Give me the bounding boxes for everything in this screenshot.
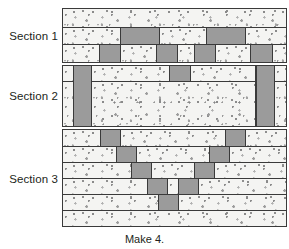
patch-light	[160, 28, 207, 44]
patch-gray	[210, 147, 230, 162]
patch-gray	[226, 130, 246, 146]
patch-light	[63, 211, 286, 227]
section3-row5	[63, 195, 286, 211]
patch-light	[178, 45, 195, 63]
patch-light	[152, 163, 194, 178]
patch-gray	[195, 45, 216, 63]
patch-light	[191, 66, 256, 81]
section2-left-bar	[73, 66, 92, 126]
patch-gray	[157, 45, 178, 63]
patch-light	[121, 45, 157, 63]
section3-row3	[63, 163, 286, 179]
patch-light	[246, 28, 286, 44]
patch-light	[63, 179, 148, 194]
patch-light	[199, 179, 286, 194]
patch-gray	[132, 163, 152, 178]
patch-light	[273, 45, 286, 63]
patch-gray	[207, 28, 246, 44]
patch-gray	[117, 147, 137, 162]
section3-row1	[63, 130, 286, 147]
figure-caption: Make 4.	[0, 233, 289, 245]
section-1-block	[62, 8, 287, 63]
section-label-3: Section 3	[0, 173, 58, 185]
patch-light	[63, 45, 100, 63]
section2-right-bar	[256, 66, 275, 126]
section1-row3	[63, 45, 286, 63]
quilt-section-diagram: Section 1 Section 2	[0, 0, 289, 249]
patch-light	[216, 45, 252, 63]
section2-row2	[63, 82, 286, 127]
section-3-block	[62, 129, 287, 227]
patch-light	[63, 163, 132, 178]
patch-light	[63, 195, 159, 210]
patch-light	[246, 130, 286, 146]
patch-light	[63, 9, 286, 27]
section3-row6	[63, 211, 286, 227]
patch-light	[63, 147, 117, 162]
section-label-1: Section 1	[0, 30, 58, 42]
patch-light	[63, 130, 101, 146]
patch-gray	[251, 45, 272, 63]
patch-light	[121, 130, 226, 146]
patch-gray	[101, 130, 121, 146]
section1-row2	[63, 28, 286, 45]
section-label-2: Section 2	[0, 90, 58, 102]
patch-gray	[100, 45, 121, 63]
patch-light	[168, 179, 179, 194]
patch-light	[275, 66, 286, 81]
patch-light	[179, 195, 286, 210]
section1-row1	[63, 9, 286, 28]
patch-light	[92, 66, 170, 81]
section3-row4	[63, 179, 286, 195]
patch-light	[63, 82, 73, 127]
patch-gray	[148, 179, 168, 194]
patch-gray	[170, 66, 191, 81]
patch-light	[63, 66, 73, 81]
patch-light	[92, 82, 256, 127]
patch-light	[215, 163, 286, 178]
section-2-block	[62, 65, 287, 127]
patch-light	[275, 82, 286, 127]
patch-gray	[159, 195, 179, 210]
section3-row2	[63, 147, 286, 163]
patch-gray	[179, 179, 199, 194]
patch-light	[230, 147, 286, 162]
patch-light	[63, 28, 121, 44]
section2-row1	[63, 66, 286, 82]
patch-gray	[121, 28, 160, 44]
patch-light	[137, 147, 211, 162]
patch-gray	[195, 163, 215, 178]
